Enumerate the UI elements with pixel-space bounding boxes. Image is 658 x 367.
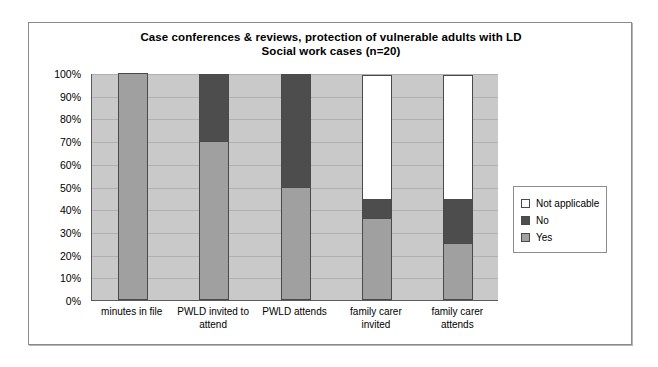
legend-item-label: No — [536, 215, 549, 226]
y-axis-tick-label: 80% — [60, 113, 81, 125]
y-axis-tick-label: 90% — [60, 91, 81, 103]
stacked-bar — [199, 73, 229, 300]
bar-segment-yes — [443, 243, 473, 300]
legend-item: Yes — [521, 232, 600, 243]
stacked-bar — [443, 73, 473, 300]
y-axis-tick-label: 20% — [60, 250, 81, 262]
legend-item: Not applicable — [521, 198, 600, 209]
y-axis-tick-label: 70% — [60, 136, 81, 148]
plot-wrapper: 100%90%80%70%60%50%40%30%20%10%0% minute… — [29, 23, 633, 346]
y-axis-tick-label: 0% — [66, 295, 81, 307]
stacked-bar — [362, 73, 392, 300]
chart-legend: Not applicableNoYes — [513, 186, 607, 253]
x-axis-tick-label: minutes in file — [92, 305, 171, 318]
y-axis-labels: 100%90%80%70%60%50%40%30%20%10%0% — [29, 74, 87, 301]
bar-segment-no — [443, 199, 473, 244]
y-axis-tick-label: 40% — [60, 204, 81, 216]
legend-swatch-icon — [521, 233, 530, 242]
x-axis-tick-label: PWLD attends — [255, 305, 334, 318]
x-axis-tick-label: family carer invited — [336, 305, 415, 331]
stacked-bar — [281, 73, 311, 300]
chart-frame: Case conferences & reviews, protection o… — [28, 22, 632, 345]
y-axis-tick-label: 10% — [60, 272, 81, 284]
legend-swatch-icon — [521, 199, 530, 208]
y-axis-tick-label: 30% — [60, 227, 81, 239]
bar-segment-no — [199, 74, 229, 142]
bar-segment-not-applicable — [362, 75, 392, 200]
bar-segment-no — [362, 199, 392, 219]
legend-swatch-icon — [521, 216, 530, 225]
plot-area — [91, 74, 498, 301]
x-axis-tick-label: PWLD invited to attend — [173, 305, 252, 331]
bar-segment-yes — [281, 187, 311, 301]
bar-segment-no — [281, 74, 311, 188]
y-axis-tick-label: 50% — [60, 182, 81, 194]
bar-segment-yes — [118, 73, 148, 300]
x-axis-tick-label: family carer attends — [418, 305, 497, 331]
legend-item-label: Not applicable — [536, 198, 599, 209]
legend-item: No — [521, 215, 600, 226]
bar-segment-not-applicable — [443, 75, 473, 200]
bar-segment-yes — [199, 141, 229, 300]
stacked-bar — [118, 73, 148, 300]
y-axis-tick-label: 60% — [60, 159, 81, 171]
x-axis-labels: minutes in filePWLD invited to attendPWL… — [91, 305, 498, 345]
legend-item-label: Yes — [536, 232, 552, 243]
bar-group — [92, 74, 498, 300]
y-axis-tick-label: 100% — [54, 68, 81, 80]
bar-segment-yes — [362, 218, 392, 300]
